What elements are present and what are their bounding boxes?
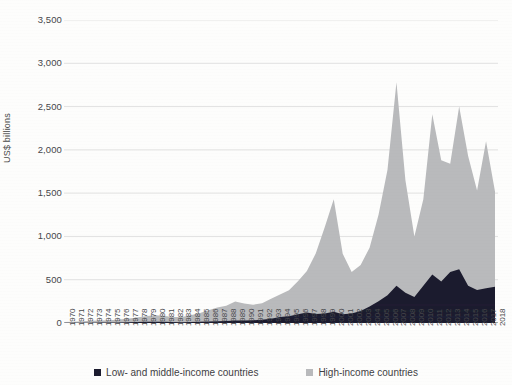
y-tick-label: 3,000 [16,57,62,68]
x-tick-label: 2004 [373,309,382,326]
x-tick-label: 1978 [140,309,149,326]
stacked-area-chart [64,20,498,323]
x-tick-label: 1993 [274,309,283,326]
y-axis-tick-labels: 05001,0001,5002,0002,5003,0003,500 [0,0,62,385]
chart-page: US$ billions 05001,0001,5002,0002,5003,0… [0,0,512,385]
x-tick-label: 1996 [301,309,310,326]
legend-item: High-income countries [306,367,418,378]
x-tick-label: 1987 [220,309,229,326]
x-tick-label: 1991 [256,309,265,326]
x-tick-label: 1980 [158,309,167,326]
x-tick-label: 1977 [131,309,140,326]
x-tick-label: 1999 [328,309,337,326]
x-tick-label: 1981 [167,309,176,326]
x-tick-label: 1994 [283,309,292,326]
legend-swatch-icon [94,369,101,376]
x-tick-label: 2011 [435,309,444,326]
x-tick-label: 1986 [211,309,220,326]
legend-label: Low- and middle-income countries [106,367,258,378]
x-tick-label: 1972 [86,309,95,326]
y-tick-label: 2,000 [16,144,62,155]
x-tick-label: 2000 [337,309,346,326]
x-tick-label: 2012 [444,309,453,326]
x-tick-label: 1975 [113,309,122,326]
x-axis-tick-labels: 1970197119721973197419751976197719781979… [64,326,504,362]
x-tick-label: 2001 [346,309,355,326]
x-tick-label: 1998 [319,309,328,326]
x-tick-label: 1973 [95,309,104,326]
x-tick-label: 1988 [229,309,238,326]
x-tick-label: 1976 [122,309,131,326]
x-tick-label: 1989 [238,309,247,326]
x-tick-label: 1971 [77,309,86,326]
x-tick-label: 1974 [104,309,113,326]
x-tick-label: 2016 [480,309,489,326]
x-tick-label: 1997 [310,309,319,326]
x-tick-label: 2005 [382,309,391,326]
legend-swatch-icon [306,369,313,376]
x-tick-label: 1990 [247,309,256,326]
y-tick-label: 1,500 [16,187,62,198]
x-tick-label: 2002 [355,309,364,326]
legend-label: High-income countries [318,367,418,378]
x-tick-label: 1970 [68,309,77,326]
x-tick-label: 1992 [265,309,274,326]
x-tick-label: 2013 [453,309,462,326]
chart-legend: Low- and middle-income countriesHigh-inc… [0,362,512,382]
x-tick-label: 2018 [498,309,507,326]
x-tick-label: 1995 [292,309,301,326]
x-tick-label: 2017 [489,309,498,326]
y-tick-label: 2,500 [16,101,62,112]
x-tick-label: 1979 [149,309,158,326]
x-tick-label: 2010 [426,309,435,326]
legend-item: Low- and middle-income countries [94,367,258,378]
y-tick-label: 500 [16,274,62,285]
chart-plot-area [64,20,498,323]
x-tick-label: 2003 [364,309,373,326]
x-tick-label: 2015 [471,309,480,326]
y-tick-label: 3,500 [16,14,62,25]
y-tick-label: 1,000 [16,230,62,241]
x-tick-label: 2014 [462,309,471,326]
y-tick-label: 0 [16,317,62,328]
